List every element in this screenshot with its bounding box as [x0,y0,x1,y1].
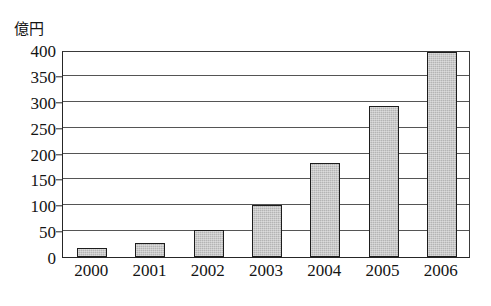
gridline [63,153,469,154]
x-axis-tick-label: 2003 [249,262,283,279]
x-axis-tick-labels: 2000200120022003200420052006 [62,262,470,288]
x-axis-tick-label: 2001 [132,262,166,279]
y-axis-tick-label: 0 [48,250,57,267]
bar [252,205,282,257]
y-axis-unit-label: 億円 [14,22,44,37]
x-axis-tick-label: 2004 [307,262,341,279]
y-axis-tick-labels: 050100150200250300350400 [0,51,56,258]
gridline [63,75,469,76]
bar [427,52,457,257]
bar [77,248,107,257]
bar [310,163,340,257]
gridline [63,127,469,128]
y-axis-tick-label: 100 [31,198,57,215]
x-axis-tick-label: 2005 [366,262,400,279]
y-axis-tick-label: 300 [31,94,57,111]
gridline [63,178,469,179]
y-axis-tick-label: 200 [31,146,57,163]
y-axis-tick-label: 350 [31,68,57,85]
x-axis-tick-label: 2000 [74,262,108,279]
y-axis-tick-label: 250 [31,120,57,137]
bar [369,106,399,257]
bar [194,230,224,257]
bar [135,243,165,257]
x-axis-tick-label: 2006 [424,262,458,279]
x-axis-tick-label: 2002 [191,262,225,279]
gridline [63,101,469,102]
y-axis-tick-label: 50 [39,224,56,241]
plot-area [62,51,470,258]
y-axis-tick-label: 150 [31,172,57,189]
y-axis-tick-label: 400 [31,43,57,60]
bar-chart: 億円 050100150200250300350400 200020012002… [0,0,491,306]
